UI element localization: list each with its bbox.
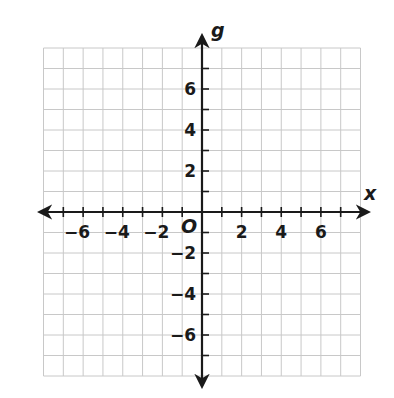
x-tick-label: 6 [315,222,327,242]
x-tick-label: −4 [104,222,130,242]
y-tick-label: −4 [170,284,196,304]
x-tick-label: 2 [236,222,248,242]
y-tick-label: 2 [184,161,196,181]
x-axis-label: x [363,182,377,204]
y-tick-label: −2 [170,243,196,263]
y-tick-label: −6 [170,325,196,345]
y-tick-label: 6 [184,79,196,99]
x-tick-label: −2 [143,222,169,242]
coordinate-plane: −6−4−2246642−2−4−6 x g O [0,0,394,398]
x-tick-label: 4 [275,222,287,242]
x-tick-label: −6 [64,222,90,242]
origin-label: O [181,215,197,237]
y-tick-label: 4 [184,120,196,140]
y-axis-label: g [211,19,225,41]
